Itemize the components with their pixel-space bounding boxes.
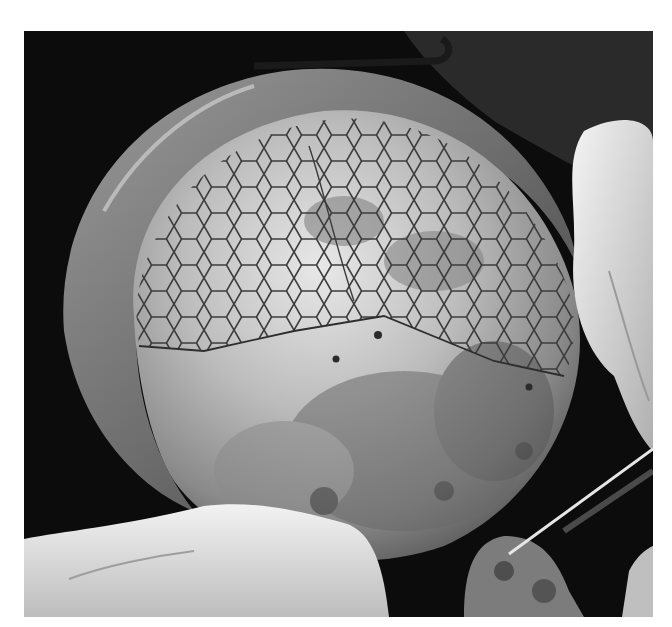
photograph: Grayscale intraoperative photograph of a… — [24, 31, 653, 617]
suture-knot — [374, 331, 382, 339]
suture-knot — [333, 356, 340, 363]
photo-illustration — [24, 31, 653, 617]
suture-knot — [526, 384, 533, 391]
